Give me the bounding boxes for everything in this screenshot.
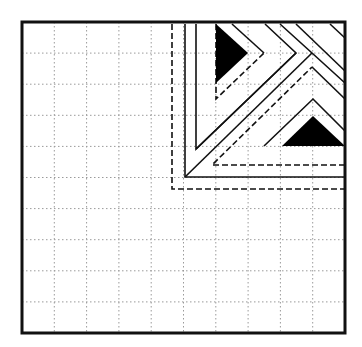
upper-left-triangle [216, 24, 248, 83]
diagram-canvas [0, 0, 362, 347]
upper-chevron-4 [330, 24, 345, 38]
quilt-diagram [0, 0, 362, 347]
inner-dashed-horizontal [212, 67, 345, 165]
lower-chevron-inner [312, 67, 345, 99]
corner-pattern [172, 24, 345, 189]
middle-diagonal [196, 53, 296, 149]
